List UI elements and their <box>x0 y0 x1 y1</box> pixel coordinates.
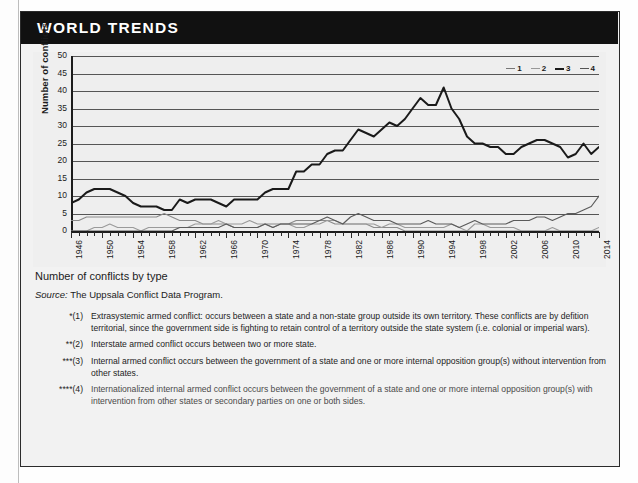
plot-area: 05101520253035404550 1946195019541958196… <box>71 56 599 231</box>
x-tick-mark <box>141 232 142 236</box>
page-gutter-margin <box>0 0 18 483</box>
x-tick-mark <box>180 232 181 236</box>
x-tick-label: 1958 <box>167 240 177 259</box>
x-tick-mark <box>312 232 313 236</box>
x-tick-mark <box>552 232 553 236</box>
x-tick-mark <box>219 232 220 236</box>
plot-canvas: 05101520253035404550 1946195019541958196… <box>71 56 599 231</box>
x-tick-mark <box>584 232 585 236</box>
x-tick-label: 1970 <box>260 240 270 259</box>
legend-line-icon <box>580 68 589 69</box>
x-tick-label: 2010 <box>571 240 581 259</box>
x-tick-mark <box>118 232 119 236</box>
caption-source-text: The Uppsala Conflict Data Program. <box>68 289 223 300</box>
x-tick-label: 1950 <box>105 240 115 259</box>
x-tick-mark <box>444 232 445 238</box>
x-tick-mark <box>110 232 111 236</box>
legend-label: 4 <box>591 64 595 73</box>
x-tick-mark <box>94 232 95 236</box>
legend-line-icon <box>531 68 540 69</box>
x-tick-mark <box>164 232 165 238</box>
x-tick-label: 1946 <box>74 240 84 259</box>
chart-legend: 1234 <box>506 64 595 73</box>
x-tick-mark <box>413 232 414 238</box>
legend-item-2: 2 <box>531 64 546 73</box>
x-tick-label: 1982 <box>354 240 364 259</box>
x-tick-mark <box>467 232 468 236</box>
x-tick-mark <box>483 232 484 236</box>
x-tick-mark <box>436 232 437 236</box>
figure-banner-title: WORLD TRENDS <box>37 19 179 37</box>
series-lines <box>71 56 599 231</box>
figure-box: WORLD TRENDS Number of conflicts 0510152… <box>20 11 620 467</box>
x-tick-mark <box>335 232 336 236</box>
x-tick-mark <box>304 232 305 236</box>
y-tick-label: 25 <box>58 138 67 148</box>
x-tick-mark <box>397 232 398 236</box>
legend-item-3: 3 <box>555 64 570 73</box>
x-tick-mark <box>320 232 321 238</box>
x-tick-mark <box>529 232 530 236</box>
footnote-item: *(1)Extrasystemic armed conflict: occurs… <box>37 310 613 334</box>
x-tick-mark <box>591 232 592 236</box>
y-tick-label: 45 <box>58 68 67 78</box>
x-tick-label: 1994 <box>447 240 457 259</box>
x-tick-mark <box>234 232 235 236</box>
caption-title: Number of conflicts by type <box>35 270 610 282</box>
x-tick-label: 2006 <box>540 240 550 259</box>
x-tick-mark <box>351 232 352 238</box>
page-gutter-line <box>18 0 19 483</box>
footnote-marker: ***(3) <box>37 355 91 379</box>
x-tick-label: 1974 <box>291 240 301 259</box>
caption-source: Source: The Uppsala Conflict Data Progra… <box>35 289 610 300</box>
x-tick-mark <box>343 232 344 236</box>
x-tick-label: 1986 <box>385 240 395 259</box>
x-tick-mark <box>374 232 375 236</box>
x-tick-mark <box>71 232 72 238</box>
footnote-text: Internationalized internal armed conflic… <box>91 383 613 407</box>
footnote-marker: **(2) <box>37 338 91 350</box>
x-tick-label: 1990 <box>416 240 426 259</box>
x-tick-mark <box>226 232 227 238</box>
x-tick-mark <box>265 232 266 236</box>
x-tick-mark <box>560 232 561 236</box>
footnote-text: Internal armed conflict occurs between t… <box>91 355 613 379</box>
x-tick-mark <box>521 232 522 236</box>
x-tick-mark <box>296 232 297 236</box>
x-tick-mark <box>188 232 189 236</box>
series-line-4 <box>71 196 599 231</box>
footnote-item: ****(4)Internationalized internal armed … <box>37 383 613 407</box>
x-tick-label: 1966 <box>229 240 239 259</box>
y-tick-label: 10 <box>58 190 67 200</box>
x-tick-mark <box>459 232 460 236</box>
y-axis-label: Number of conflicts <box>39 4 50 114</box>
x-tick-mark <box>195 232 196 238</box>
x-tick-mark <box>156 232 157 236</box>
legend-label: 3 <box>566 64 570 73</box>
footnote-list: *(1)Extrasystemic armed conflict: occurs… <box>37 310 613 411</box>
x-tick-mark <box>420 232 421 236</box>
x-tick-mark <box>358 232 359 236</box>
x-tick-mark <box>382 232 383 238</box>
x-tick-mark <box>172 232 173 236</box>
x-tick-mark <box>514 232 515 236</box>
x-tick-label: 2002 <box>509 240 519 259</box>
series-line-3 <box>71 88 599 211</box>
legend-line-icon <box>506 68 515 69</box>
x-tick-label: 1962 <box>198 240 208 259</box>
y-tick-label: 20 <box>58 155 67 165</box>
x-tick-mark <box>475 232 476 238</box>
x-tick-label: 1998 <box>478 240 488 259</box>
x-tick-mark <box>242 232 243 236</box>
x-tick-mark <box>102 232 103 238</box>
y-tick-label: 50 <box>58 50 67 60</box>
legend-label: 2 <box>542 64 546 73</box>
x-tick-label: 2014 <box>602 240 612 259</box>
y-tick-label: 15 <box>58 173 67 183</box>
x-tick-mark <box>568 232 569 238</box>
x-tick-mark <box>366 232 367 236</box>
x-tick-mark <box>250 232 251 236</box>
x-tick-mark <box>498 232 499 236</box>
x-tick-mark <box>537 232 538 238</box>
legend-label: 1 <box>517 64 521 73</box>
